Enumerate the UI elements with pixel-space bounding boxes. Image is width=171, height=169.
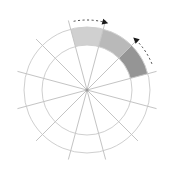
- spoke-line: [17, 90, 87, 109]
- center-point: [86, 89, 89, 92]
- spoke-line: [87, 90, 106, 160]
- clockwise-arrow: [74, 19, 109, 25]
- spoke-line: [68, 90, 87, 160]
- dashed-arc: [74, 20, 107, 23]
- spoke-line: [36, 90, 87, 141]
- spoke-line: [87, 90, 138, 141]
- spoke-line: [17, 71, 87, 90]
- light-sector: [71, 27, 104, 47]
- spoke-line: [87, 90, 157, 109]
- spoke-line: [87, 71, 157, 90]
- arrowhead-icon: [102, 19, 109, 25]
- polar-diagram: [0, 0, 171, 169]
- spoke-line: [36, 39, 87, 90]
